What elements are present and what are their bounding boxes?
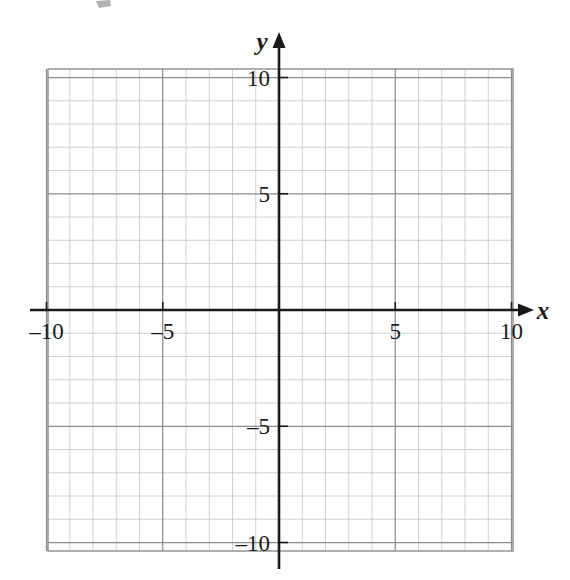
x-tick-label: –10 [28,319,64,344]
coordinate-plane-svg: –10–5510105–5–10 x y [0,0,570,580]
y-tick-label: –10 [235,531,271,556]
y-tick-label: 10 [247,66,270,91]
x-tick-label: 5 [390,319,402,344]
y-tick-label: –5 [246,414,270,439]
x-tick-label: –5 [150,319,174,344]
y-axis-label: y [253,28,268,55]
y-tick-label: 5 [259,182,271,207]
coordinate-grid-figure: –10–5510105–5–10 x y [0,0,570,580]
x-tick-label: 10 [500,319,523,344]
canvas-background [0,0,570,580]
x-axis-label: x [536,297,550,324]
